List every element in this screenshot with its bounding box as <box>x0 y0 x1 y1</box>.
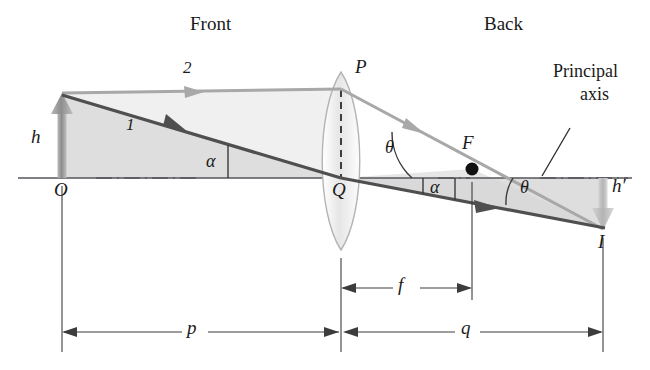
point-label-F: F <box>462 133 474 153</box>
ray-2-refracted-arrowhead <box>402 118 425 134</box>
dimension-p-arrow-right <box>324 327 339 337</box>
ray-2-label: 2 <box>183 59 192 77</box>
dimension-label-p: p <box>187 318 197 338</box>
point-label-I: I <box>598 232 604 252</box>
point-label-O: O <box>54 180 68 200</box>
region-label-front: Front <box>190 14 231 34</box>
dimension-p <box>62 327 339 337</box>
dimension-f-arrow-right <box>457 283 472 293</box>
dimension-f-arrow-left <box>341 283 356 293</box>
dimension-q-arrow-left <box>343 327 358 337</box>
dimension-label-f: f <box>398 275 403 295</box>
figure-canvas: Front Back Principal axis 2 1 h O P Q F … <box>0 0 650 370</box>
angle-label-alpha-back: α <box>430 178 439 197</box>
principal-axis-label-line2: axis <box>580 85 609 104</box>
angle-label-theta-upper: θ <box>385 138 394 157</box>
point-label-P: P <box>355 57 367 77</box>
ray-diagram-svg <box>0 0 650 370</box>
image-height-label-h-prime: h′ <box>612 176 626 196</box>
angle-label-theta-lower: θ <box>520 178 529 197</box>
focal-point-dot <box>466 163 479 176</box>
dimension-p-arrow-left <box>62 327 77 337</box>
dimension-label-q: q <box>461 318 471 338</box>
ray-1-label: 1 <box>126 116 135 134</box>
angle-label-alpha-front: α <box>206 152 215 171</box>
object-height-label-h: h <box>31 127 41 147</box>
point-label-Q: Q <box>332 180 346 200</box>
image-arrow-shaft <box>599 178 608 212</box>
dimension-q-arrow-right <box>588 327 603 337</box>
principal-axis-label-line1: Principal <box>553 62 618 81</box>
region-label-back: Back <box>484 14 523 34</box>
principal-axis-leader-line <box>542 128 570 176</box>
dimension-q <box>343 327 603 337</box>
theta-upper-arc <box>392 132 412 178</box>
dimension-f <box>341 283 472 293</box>
